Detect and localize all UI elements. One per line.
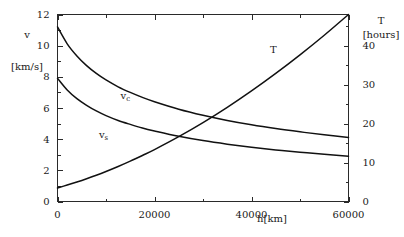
x-tick-label: 20000 — [139, 209, 171, 220]
orbital-velocity-period-chart: 0200004000060000 024681012 010203040 h[k… — [0, 0, 404, 237]
y-right-tick-label: 30 — [363, 79, 376, 90]
curve-label-base: T — [270, 44, 277, 55]
y-right-tick-label: 0 — [363, 196, 369, 207]
y-axis-left-unit: [km/s] — [11, 61, 43, 72]
curve-label-v_s: vs — [98, 129, 109, 143]
curve-annotations: vcvsT — [98, 44, 277, 142]
curve-T — [58, 15, 349, 188]
y-right-tick-label: 20 — [363, 118, 376, 129]
curve-vs — [58, 78, 349, 156]
curve-label-subscript: c — [126, 95, 130, 103]
y-left-tick-label: 8 — [43, 71, 49, 82]
figure-container: 0200004000060000 024681012 010203040 h[k… — [0, 0, 404, 237]
y-left-tick-label: 10 — [37, 40, 50, 51]
y-axis-right-unit: [hours] — [363, 29, 400, 40]
curve-vc — [58, 27, 349, 137]
y-axis-right-tick-labels: 010203040 — [363, 40, 376, 207]
x-tick-label: 60000 — [333, 209, 365, 220]
y-axis-right-symbol: T — [378, 15, 385, 26]
y-left-tick-label: 4 — [43, 134, 49, 145]
y-axis-left-tick-labels: 024681012 — [37, 9, 50, 207]
y-axis-right-ticks — [344, 27, 349, 203]
x-axis-title: h[km] — [257, 213, 287, 224]
curve-label-subscript: s — [105, 134, 109, 142]
y-left-tick-label: 2 — [43, 165, 49, 176]
y-axis-left-ticks — [58, 16, 63, 203]
y-left-tick-label: 12 — [37, 9, 50, 20]
x-tick-label: 0 — [54, 209, 60, 220]
y-axis-left-symbol: v — [23, 29, 30, 40]
y-right-tick-label: 40 — [363, 40, 376, 51]
y-left-tick-label: 0 — [43, 196, 49, 207]
data-curves — [58, 15, 349, 188]
y-right-tick-label: 10 — [363, 157, 376, 168]
x-axis-tick-labels: 0200004000060000 — [54, 209, 364, 220]
y-left-tick-label: 6 — [43, 103, 49, 114]
curve-label-T: T — [270, 44, 277, 55]
